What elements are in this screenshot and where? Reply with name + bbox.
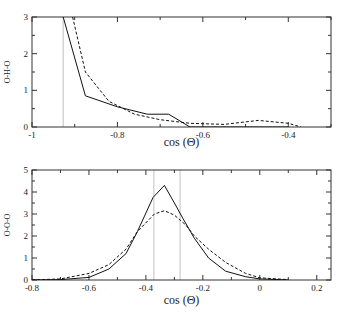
y-tick-label: 1 bbox=[24, 253, 29, 263]
plot-frame bbox=[32, 170, 331, 280]
x-tick-label: -0.2 bbox=[196, 283, 210, 293]
x-tick-label: -0.4 bbox=[139, 283, 154, 293]
series-dashed-line bbox=[73, 17, 302, 127]
y-tick-label: 4 bbox=[24, 187, 29, 197]
x-tick-label: 0.2 bbox=[311, 283, 322, 293]
y-tick-label: 2 bbox=[24, 49, 29, 59]
x-tick-label: -0.6 bbox=[82, 283, 97, 293]
chart-o-o-o: -0.8-0.6-0.4-0.200.2012345cos (Θ)O-O-O bbox=[3, 165, 331, 307]
y-tick-label: 3 bbox=[24, 209, 29, 219]
x-tick-label: 0 bbox=[258, 283, 263, 293]
x-tick-label: -0.8 bbox=[110, 130, 125, 140]
x-axis-title: cos (Θ) bbox=[164, 293, 200, 307]
x-axis-title: cos (Θ) bbox=[164, 135, 200, 149]
x-tick-label: -1 bbox=[28, 130, 36, 140]
series-solid-line bbox=[32, 185, 288, 280]
series-solid-line bbox=[63, 17, 288, 127]
y-tick-label: 2 bbox=[24, 231, 29, 241]
y-tick-label: 1 bbox=[24, 85, 29, 95]
series-dashed-line bbox=[32, 211, 288, 280]
chart-o-h-o: -1-0.8-0.6-0.40123cos (Θ)O-H-O bbox=[3, 12, 331, 149]
y-tick-label: 0 bbox=[24, 122, 29, 132]
figure-canvas: -1-0.8-0.6-0.40123cos (Θ)O-H-O -0.8-0.6-… bbox=[0, 0, 345, 316]
y-axis-title: O-H-O bbox=[3, 60, 12, 83]
y-tick-label: 3 bbox=[24, 12, 29, 22]
y-tick-label: 5 bbox=[24, 165, 29, 175]
y-tick-label: 0 bbox=[24, 275, 29, 285]
x-tick-label: -0.4 bbox=[281, 130, 296, 140]
y-axis-title: O-O-O bbox=[3, 213, 12, 236]
